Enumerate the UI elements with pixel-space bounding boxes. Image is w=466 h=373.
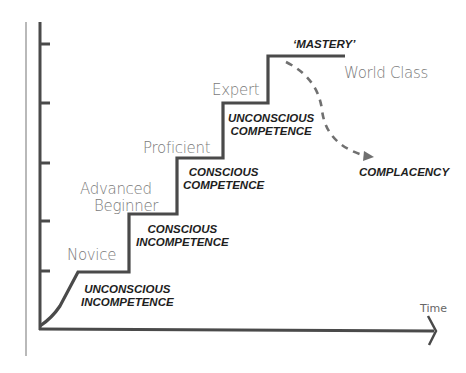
x-axis	[39, 329, 434, 331]
phase-label-mastery: ‘MASTERY’	[293, 38, 355, 51]
phase-line-2: COMPETENCE	[183, 179, 264, 192]
phase-line-1: CONSCIOUS	[183, 166, 264, 179]
phase-line-1: UNCONSCIOUS	[81, 283, 174, 296]
phase-line-1: CONSCIOUS	[136, 223, 229, 236]
stage-label-world-class: World Class	[344, 66, 428, 81]
phase-line-1: UNCONSCIOUS	[228, 112, 314, 125]
phase-label-conscious-incompetence: CONSCIOUS INCOMPETENCE	[136, 223, 229, 249]
stage-label-expert: Expert	[212, 83, 259, 98]
stage-label-advanced: Advanced	[80, 182, 152, 197]
phase-label-complacency: COMPLACENCY	[359, 166, 449, 179]
phase-line-2: INCOMPETENCE	[81, 296, 174, 309]
complacency-arrowhead-icon	[363, 151, 374, 161]
phase-line-2: INCOMPETENCE	[136, 236, 229, 249]
competence-staircase-diagram: Novice Advanced Beginner Proficient Expe…	[0, 0, 466, 373]
phase-line-2: COMPETENCE	[228, 125, 314, 138]
x-axis-label: Time	[420, 303, 447, 314]
stage-label-beginner: Beginner	[94, 199, 158, 214]
stage-label-novice: Novice	[67, 248, 116, 263]
phase-label-conscious-competence: CONSCIOUS COMPETENCE	[183, 166, 264, 192]
phase-label-unconscious-competence: UNCONSCIOUS COMPETENCE	[228, 112, 314, 138]
phase-label-unconscious-incompetence: UNCONSCIOUS INCOMPETENCE	[81, 283, 174, 309]
stage-label-proficient: Proficient	[143, 141, 210, 156]
